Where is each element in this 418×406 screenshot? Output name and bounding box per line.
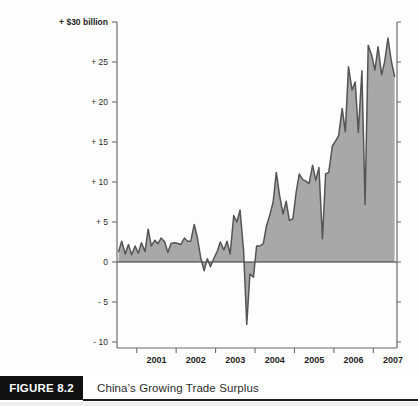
x-axis-tick-label: 2004: [265, 355, 285, 365]
y-axis-tick-label: + 20: [91, 97, 108, 107]
chart-plot-region: + $30 billion+ 25+ 20+ 15+ 10+ 50- 5- 10…: [0, 0, 418, 370]
figure-caption-text: China’s Growing Trade Surplus: [97, 382, 259, 394]
figure-container: + $30 billion+ 25+ 20+ 15+ 10+ 50- 5- 10…: [0, 0, 418, 406]
x-axis: 2001200220032004200520062007: [137, 348, 403, 365]
y-axis-tick-label: 0: [103, 257, 108, 267]
y-axis-unit-label: + $30 billion: [59, 17, 108, 27]
figure-number-label: FIGURE 8.2: [9, 382, 74, 394]
x-axis-tick-label: 2007: [383, 355, 403, 365]
y-axis-tick-label: + 10: [91, 177, 108, 187]
y-axis-tick-label: + 5: [96, 217, 108, 227]
x-axis-tick-label: 2006: [344, 355, 364, 365]
x-axis-tick-label: 2003: [225, 355, 245, 365]
figure-caption-body: China’s Growing Trade Surplus: [83, 376, 418, 400]
figure-number-badge: FIGURE 8.2: [0, 376, 83, 400]
y-axis-tick-label: + 25: [91, 57, 108, 67]
page-edge-shadow: [0, 402, 418, 406]
y-axis-tick-label: + 15: [91, 137, 108, 147]
x-axis-tick-label: 2001: [146, 355, 166, 365]
y-axis-tick-label: - 5: [98, 297, 108, 307]
y-axis-tick-label: - 10: [93, 337, 108, 347]
x-axis-tick-label: 2002: [186, 355, 206, 365]
y-axis: + $30 billion+ 25+ 20+ 15+ 10+ 50- 5- 10: [59, 17, 117, 347]
caption-underline-rule: [83, 399, 418, 401]
trade-surplus-area-chart: + $30 billion+ 25+ 20+ 15+ 10+ 50- 5- 10…: [0, 0, 418, 370]
x-axis-tick-label: 2005: [304, 355, 324, 365]
area-series-fill: [119, 38, 395, 324]
figure-caption-bar: FIGURE 8.2 China’s Growing Trade Surplus: [0, 376, 418, 400]
